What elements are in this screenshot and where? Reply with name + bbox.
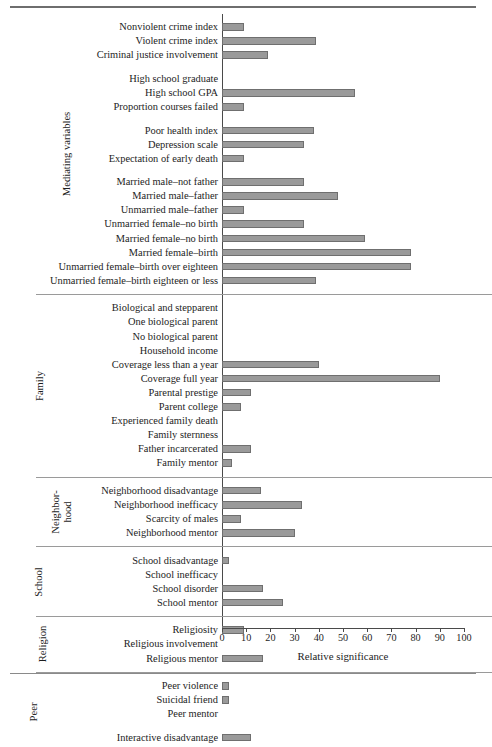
bar-married-male-not-father [222,178,304,186]
category-label-coverage-less-than-a-year: Coverage less than a year [112,358,218,372]
bar-row: Family sternness [0,428,486,442]
bar-row: Parental prestige [0,386,486,400]
category-label-school-disadvantage: School disadvantage [132,554,218,568]
category-label-neighborhood-inefficacy: Neighborhood inefficacy [114,498,218,512]
bar-row: No biological parent [0,330,486,344]
category-label-suicidal-friend: Suicidal friend [157,693,218,707]
bar-coverage-less-than-a-year [222,361,319,369]
bar-unmarried-female-birth-eighteen-or-less [222,277,316,285]
bar-father-incarcerated [222,445,251,453]
category-label-experienced-family-death: Experienced family death [111,414,218,428]
bar-poor-health-index [222,127,314,135]
bar-unmarried-male-father [222,206,244,214]
bar-row: Parent college [0,400,486,414]
category-label-nonviolent-crime-index: Nonviolent crime index [119,20,218,34]
category-label-school-inefficacy: School inefficacy [145,568,218,582]
bar-row: Married female–no birth [0,232,486,246]
bar-expectation-of-early-death [222,155,244,163]
figure-top-rule [10,6,476,8]
bar-row: Neighborhood disadvantage [0,484,486,498]
x-tick-label: 40 [314,632,324,643]
bar-criminal-justice-involvement [222,51,268,59]
bar-school-mentor [222,599,283,607]
bar-high-school-gpa [222,89,355,97]
bar-row: Poor health index [0,124,486,138]
bar-row: Experienced family death [0,414,486,428]
bar-row: Unmarried female–no birth [0,217,486,231]
category-label-proportion-courses-failed: Proportion courses failed [114,100,218,114]
bar-row: Scarcity of males [0,512,486,526]
bar-peer-violence [222,682,229,690]
bar-row: Expectation of early death [0,152,486,166]
bar-row: Violent crime index [0,34,486,48]
bar-row: Unmarried male–father [0,203,486,217]
x-axis-title: Relative significance [222,650,464,662]
variable-group-neighborhood: Neighbor-hoodNeighborhood disadvantageNe… [0,478,486,547]
x-tick-label: 80 [411,632,421,643]
plot-area: Mediating variablesNonviolent crime inde… [0,14,486,628]
variable-group-religion: ReligionReligiosityReligious involvement… [0,617,486,672]
category-label-married-male-father: Married male–father [132,189,218,203]
x-tick-label: 70 [386,632,396,643]
bar-row: Neighborhood mentor [0,526,486,540]
bar-row: One biological parent [0,315,486,329]
bar-unmarried-female-no-birth [222,220,304,228]
bar-row: School inefficacy [0,568,486,582]
category-label-parent-college: Parent college [159,400,218,414]
category-label-interactive-disadvantage: Interactive disadvantage [117,731,218,745]
category-label-neighborhood-mentor: Neighborhood mentor [126,526,218,540]
bar-row: Interactive disadvantage [0,731,486,745]
variable-group-mediating-variables: Mediating variablesNonviolent crime inde… [0,14,486,294]
bar-row: Suicidal friend [0,693,486,707]
bar-married-female-no-birth [222,235,365,243]
bar-row: School disadvantage [0,554,486,568]
bar-row: Coverage full year [0,372,486,386]
category-label-family-sternness: Family sternness [148,428,218,442]
bar-row: Nonviolent crime index [0,20,486,34]
bar-parental-prestige [222,389,251,397]
bar-row: Neighborhood inefficacy [0,498,486,512]
x-tick-label: 0 [219,632,224,643]
bar-proportion-courses-failed [222,103,244,111]
category-label-married-female-birth: Married female–birth [129,246,218,260]
bar-depression-scale [222,141,304,149]
x-tick-label: 30 [290,632,300,643]
bar-row: Peer violence [0,679,486,693]
bar-row: Father incarcerated [0,442,486,456]
x-tick-label: 10 [241,632,251,643]
bar-row: High school GPA [0,86,486,100]
bar-row: Family mentor [0,456,486,470]
figure-bottom-rule [10,673,476,674]
category-label-unmarried-female-no-birth: Unmarried female–no birth [104,217,218,231]
category-label-poor-health-index: Poor health index [145,124,218,138]
bar-neighborhood-inefficacy [222,501,302,509]
category-label-married-male-not-father: Married male–not father [116,175,218,189]
x-tick-label: 60 [362,632,372,643]
bar-row: School mentor [0,596,486,610]
category-label-married-female-no-birth: Married female–no birth [116,232,218,246]
category-label-high-school-gpa: High school GPA [145,86,218,100]
category-label-father-incarcerated: Father incarcerated [138,442,218,456]
category-label-unmarried-female-birth-over-eighteen: Unmarried female–birth over eighteen [58,260,218,274]
category-label-parental-prestige: Parental prestige [148,386,218,400]
category-label-school-mentor: School mentor [157,596,218,610]
x-axis: 0102030405060708090100 [0,628,486,642]
category-label-violent-crime-index: Violent crime index [136,34,218,48]
bar-scarcity-of-males [222,515,241,523]
category-label-school-disorder: School disorder [152,582,218,596]
category-label-family-mentor: Family mentor [157,456,218,470]
category-label-neighborhood-disadvantage: Neighborhood disadvantage [101,484,218,498]
bar-coverage-full-year [222,375,440,383]
bar-married-male-father [222,192,338,200]
bar-row: Peer mentor [0,707,486,721]
bar-row: Depression scale [0,138,486,152]
bar-row: Household income [0,344,486,358]
bar-school-disadvantage [222,557,229,565]
category-label-one-biological-parent: One biological parent [128,315,218,329]
bar-row: Coverage less than a year [0,358,486,372]
category-label-unmarried-male-father: Unmarried male–father [121,203,218,217]
bar-school-disorder [222,585,263,593]
bar-row: Unmarried female–birth over eighteen [0,260,486,274]
bar-suicidal-friend [222,696,229,704]
